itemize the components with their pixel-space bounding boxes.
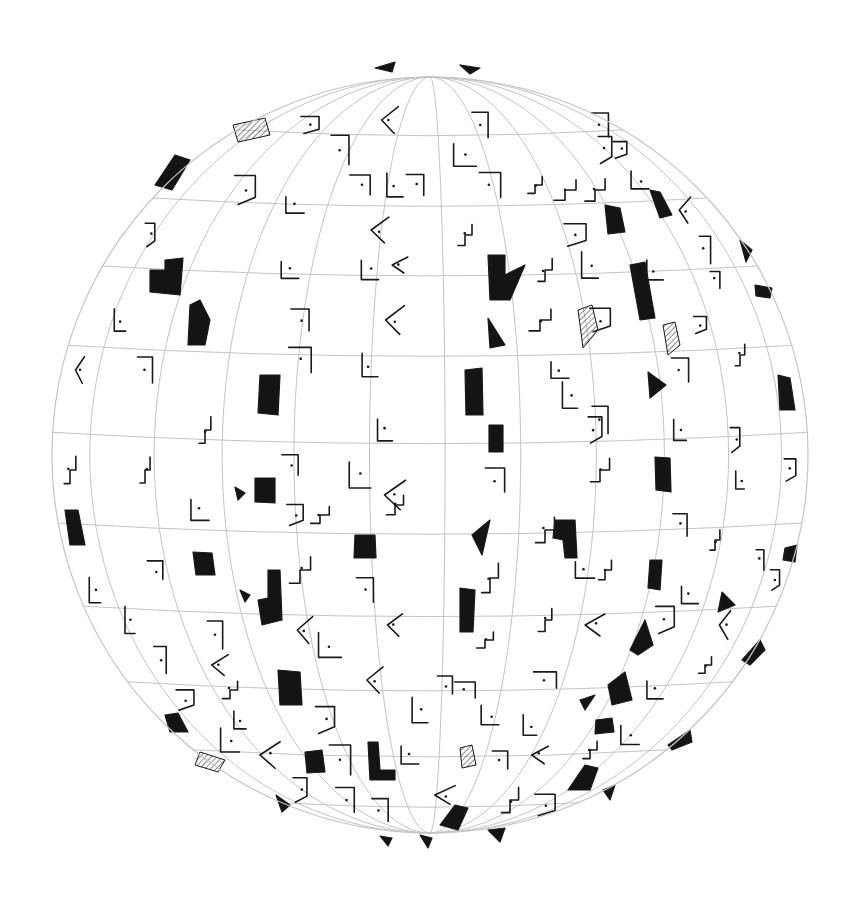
glyph-dot xyxy=(228,687,231,690)
glyph-dot xyxy=(487,577,490,580)
filled-shape xyxy=(460,65,480,74)
sphere-drawing xyxy=(0,0,855,907)
glyph-dot xyxy=(397,263,400,266)
glyph-dot xyxy=(593,188,596,191)
latitude-line xyxy=(84,606,777,616)
glyph-mark xyxy=(551,362,569,378)
glyph-mark xyxy=(735,344,744,366)
glyph-mark xyxy=(293,778,307,802)
latitude-line xyxy=(103,266,758,276)
glyph-mark xyxy=(671,358,688,382)
glyph-mark xyxy=(613,142,627,159)
filled-shape xyxy=(668,730,692,750)
glyph-mark xyxy=(319,633,342,658)
glyph-dot xyxy=(464,153,467,156)
glyph-mark xyxy=(756,550,764,571)
filled-shape xyxy=(375,62,395,72)
glyph-mark xyxy=(598,136,612,163)
glyph-mark xyxy=(710,530,720,550)
glyph-dot xyxy=(570,394,573,397)
glyph-mark xyxy=(710,272,720,289)
glyph-mark xyxy=(222,681,237,698)
glyph-dot xyxy=(702,247,705,250)
glyph-dot xyxy=(392,185,395,188)
filled-shape xyxy=(630,262,655,320)
glyph-dot xyxy=(557,369,560,372)
glyph-mark xyxy=(362,353,378,376)
glyph-dot xyxy=(652,270,655,273)
glyph-mark xyxy=(455,682,475,698)
glyph-dot xyxy=(119,320,122,323)
glyph-dot xyxy=(604,569,607,572)
sphere-sketch-svg xyxy=(0,0,855,907)
glyph-dot xyxy=(387,119,390,122)
glyph-dot xyxy=(445,795,448,798)
glyph-dot xyxy=(485,638,488,641)
glyph-dot xyxy=(603,147,606,150)
glyph-dot xyxy=(204,430,207,433)
glyph-dot xyxy=(317,514,320,517)
glyph-dot xyxy=(67,468,70,471)
glyph-mark xyxy=(435,786,456,805)
glyph-mark xyxy=(311,507,330,524)
longitude-line xyxy=(90,77,430,833)
glyph-mark xyxy=(212,655,229,676)
sphere-outline xyxy=(52,77,808,833)
glyph-dot xyxy=(621,147,624,150)
glyph-dot xyxy=(493,480,496,483)
glyph-dot xyxy=(198,507,201,510)
glyph-dot xyxy=(269,752,272,755)
latitude-line xyxy=(193,750,666,757)
glyph-dot xyxy=(510,800,513,803)
filled-shape xyxy=(595,718,614,734)
glyph-dot xyxy=(300,319,303,322)
glyph-dot xyxy=(420,708,423,711)
glyph-dot xyxy=(299,357,302,360)
filled-shape xyxy=(630,620,653,655)
glyph-dot xyxy=(289,267,292,270)
glyph-mark xyxy=(412,697,428,722)
glyph-mark xyxy=(582,252,599,278)
glyph-mark xyxy=(562,382,577,408)
glyph-dot xyxy=(217,663,220,666)
filled-shape xyxy=(368,742,395,780)
filled-shape xyxy=(150,258,183,295)
glyph-dot xyxy=(230,740,233,743)
glyph-dot xyxy=(582,568,585,571)
glyph-dot xyxy=(598,123,601,126)
glyph-dot xyxy=(309,123,312,126)
glyph-dot xyxy=(534,184,537,187)
glyph-mark xyxy=(260,742,280,768)
glyph-mark xyxy=(501,787,518,812)
hatched-shape xyxy=(663,322,680,355)
glyph-mark xyxy=(529,309,551,331)
glyph-dot xyxy=(303,630,306,633)
filled-shape xyxy=(420,835,432,848)
glyph-dot xyxy=(245,189,248,192)
glyph-dot xyxy=(143,369,146,372)
filled-shape xyxy=(258,570,282,625)
filled-shape xyxy=(354,535,376,558)
glyph-mark xyxy=(575,562,594,578)
filled-shape xyxy=(460,588,475,632)
glyph-dot xyxy=(338,149,341,152)
glyph-mark xyxy=(140,457,150,483)
filled-shape xyxy=(740,240,752,262)
hatched-shape xyxy=(460,745,476,768)
longitude-line xyxy=(430,77,445,833)
filled-shape xyxy=(648,560,662,590)
filled-shape xyxy=(605,205,625,234)
glyph-mark xyxy=(281,262,299,279)
glyph-dot xyxy=(339,758,342,761)
glyph-dot xyxy=(545,805,548,808)
glyph-mark xyxy=(372,799,388,822)
filled-shape xyxy=(188,300,210,345)
glyph-mark xyxy=(378,419,393,441)
glyph-dot xyxy=(301,788,304,791)
glyph-mark xyxy=(147,561,163,579)
filled-shape xyxy=(235,487,245,500)
filled-shape xyxy=(155,155,190,190)
glyph-dot xyxy=(361,183,364,186)
glyph-dot xyxy=(705,664,708,667)
glyph-mark xyxy=(681,586,698,603)
